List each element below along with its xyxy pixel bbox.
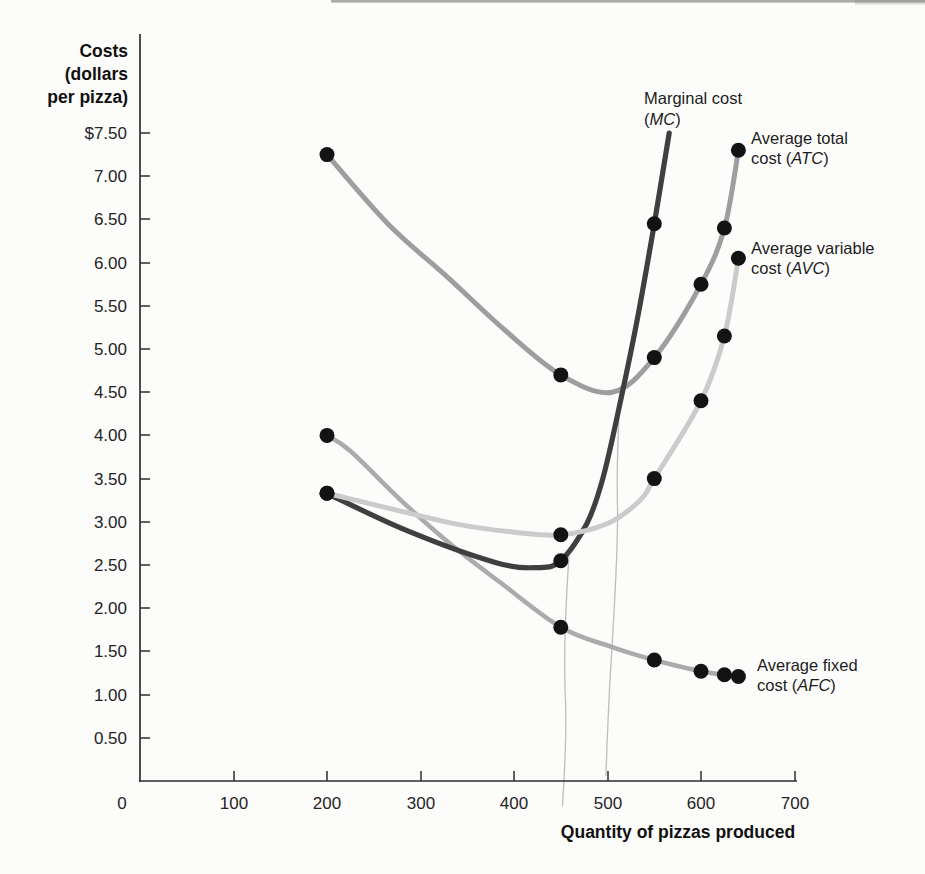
atc-curve-label: Average total (751, 129, 848, 147)
atc-data-point (731, 143, 746, 158)
x-tick-label: 300 (407, 794, 435, 813)
y-axis-title-line: per pizza) (47, 87, 128, 107)
atc-data-point (553, 367, 568, 382)
y-tick-label: 3.00 (94, 513, 127, 532)
mc-curve-label: Marginal cost (644, 89, 743, 107)
afc-data-point (717, 667, 732, 682)
atc-data-point (694, 277, 709, 292)
x-tick-label: 100 (220, 794, 248, 813)
afc-curve-label: cost (AFC) (757, 676, 836, 694)
avc-data-point (320, 486, 335, 501)
x-tick-label: 500 (594, 794, 622, 813)
x-tick-label: 400 (500, 794, 528, 813)
avc-data-point (647, 471, 662, 486)
afc-data-point (731, 669, 746, 684)
avc-data-point (553, 527, 568, 542)
afc-data-point (647, 653, 662, 668)
y-tick-label: 4.00 (94, 426, 127, 445)
y-tick-label: 2.50 (94, 556, 127, 575)
y-tick-label: 6.00 (94, 254, 127, 273)
y-tick-label: 2.00 (94, 599, 127, 618)
atc-data-point (320, 147, 335, 162)
afc-data-point (694, 664, 709, 679)
avc-data-point (717, 329, 732, 344)
y-tick-label: 3.50 (94, 470, 127, 489)
x-tick-label: 200 (313, 794, 341, 813)
y-tick-label: 5.50 (94, 297, 127, 316)
atc-curve-label: cost (ATC) (751, 149, 829, 167)
y-axis-title-line: (dollars (65, 64, 128, 84)
y-tick-label: 1.00 (94, 686, 127, 705)
mc-data-point (553, 553, 568, 568)
origin-label: 0 (117, 794, 126, 813)
y-axis-title-line: Costs (79, 41, 128, 61)
y-tick-label: 7.00 (94, 167, 127, 186)
avc-curve-label: Average variable (751, 239, 875, 257)
mc-curve-label: (MC) (644, 110, 681, 128)
y-tick-label: 0.50 (94, 729, 127, 748)
afc-data-point (553, 620, 568, 635)
mc-data-point (647, 216, 662, 231)
atc-data-point (647, 350, 662, 365)
cost-curves-chart: $7.50 7.00 6.50 6.00 5.50 5.00 4.50 4.00… (0, 0, 925, 874)
afc-curve-label: Average fixed (757, 656, 858, 674)
scan-top-edge-artifact (331, 0, 925, 3)
avc-data-point (694, 393, 709, 408)
avc-curve-label: cost (AVC) (751, 259, 830, 277)
y-tick-label: 6.50 (94, 210, 127, 229)
y-tick-label: 4.50 (94, 383, 127, 402)
x-tick-label: 700 (781, 794, 809, 813)
atc-data-point (717, 221, 732, 236)
x-axis-title: Quantity of pizzas produced (561, 822, 795, 842)
y-tick-label: 5.00 (94, 340, 127, 359)
afc-data-point (320, 428, 335, 443)
x-tick-label: 600 (687, 794, 715, 813)
avc-data-point (731, 251, 746, 266)
y-tick-label: 1.50 (94, 642, 127, 661)
y-tick-label: $7.50 (84, 124, 127, 143)
scan-top-corner-artifact (855, 0, 925, 5)
